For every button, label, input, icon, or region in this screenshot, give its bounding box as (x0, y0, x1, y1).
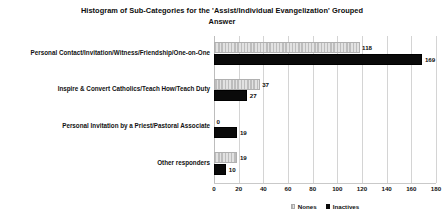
bar-value-label: 19 (240, 152, 247, 163)
bar-group-inactives: 10 (214, 164, 436, 175)
chart-legend: Nones Inactives (214, 203, 436, 210)
bar-value-label: 37 (262, 79, 269, 90)
legend-label-inactives: Inactives (333, 203, 359, 210)
legend-swatch-nones-icon (291, 204, 296, 209)
bar-nones (214, 79, 260, 90)
legend-label-nones: Nones (298, 203, 317, 210)
bar-value-label: 0 (217, 116, 220, 127)
legend-item-inactives: Inactives (326, 203, 359, 210)
bar-inactives (214, 164, 226, 175)
x-axis-line (214, 183, 436, 184)
bar-value-label: 27 (250, 90, 257, 101)
bar-group-inactives: 169 (214, 54, 436, 65)
chart-title-line-1: Histogram of Sub-Categories for the 'Ass… (22, 6, 422, 17)
legend-item-nones: Nones (291, 203, 317, 210)
category-label: Personal Contact/Invitation/Witness/Frie… (4, 49, 210, 57)
bar-inactives (214, 90, 247, 101)
bar-group-nones: 0 (214, 116, 436, 127)
bar-inactives (214, 127, 237, 138)
bar-nones (214, 42, 360, 53)
bar-group-inactives: 19 (214, 127, 436, 138)
category-label: Inspire & Convert Catholics/Teach How/Te… (4, 85, 210, 93)
bar-value-label: 169 (425, 54, 435, 65)
x-tick-180: 180 (421, 185, 444, 192)
bar-value-label: 118 (362, 42, 372, 53)
category-label: Personal Invitation by a Priest/Pastoral… (4, 122, 210, 130)
bar-group-nones: 19 (214, 152, 436, 163)
chart-title: Histogram of Sub-Categories for the 'Ass… (22, 6, 422, 27)
bar-value-label: 10 (229, 164, 236, 175)
bar-nones (214, 152, 237, 163)
bar-group-nones: 37 (214, 79, 436, 90)
legend-swatch-inactives-icon (326, 204, 331, 209)
bar-inactives (214, 54, 422, 65)
bar-group-nones: 118 (214, 42, 436, 53)
chart-title-line-2: Answer (22, 17, 422, 28)
category-group: 1910 (214, 146, 436, 183)
histogram-chart: Histogram of Sub-Categories for the 'Ass… (0, 0, 444, 218)
bar-value-label: 19 (240, 127, 247, 138)
bar-group-inactives: 27 (214, 90, 436, 101)
category-group: 118169 (214, 36, 436, 73)
category-group: 3727 (214, 73, 436, 110)
gridline-180 (436, 36, 437, 183)
category-label: Other responders (4, 159, 210, 167)
category-group: 019 (214, 110, 436, 147)
